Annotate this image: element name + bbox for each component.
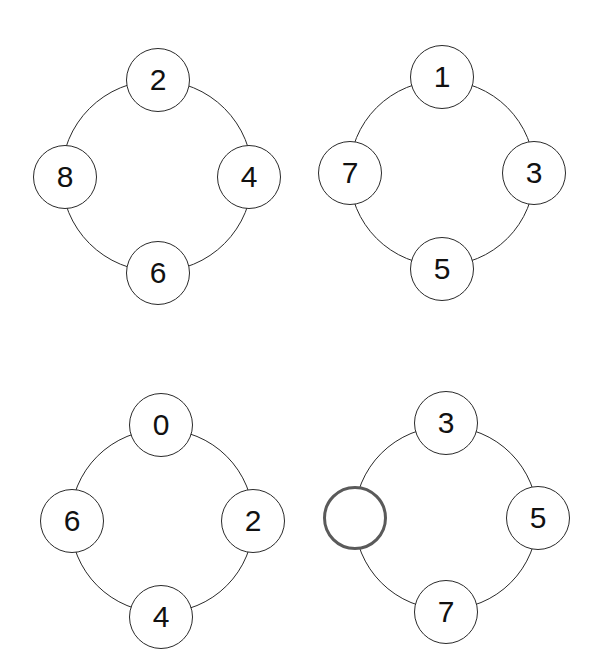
puzzle-diagram: 2 4 6 8 1 3 5 7 0 2 4 6 3 5 7 [0, 0, 599, 668]
node-3-right: 2 [221, 489, 285, 553]
node-2-right: 3 [502, 141, 566, 205]
node-4-bottom: 7 [414, 580, 478, 644]
node-2-bottom: 5 [410, 237, 474, 301]
node-3-left: 6 [40, 489, 104, 553]
node-1-bottom: 6 [126, 241, 190, 305]
node-3-bottom: 4 [129, 585, 193, 649]
node-1-right: 4 [217, 145, 281, 209]
node-4-right: 5 [506, 486, 570, 550]
node-4-top: 3 [414, 391, 478, 455]
node-1-left: 8 [33, 145, 97, 209]
node-1-top: 2 [126, 48, 190, 112]
missing-number-node [323, 486, 387, 550]
node-2-left: 7 [318, 141, 382, 205]
node-3-top: 0 [129, 393, 193, 457]
node-2-top: 1 [410, 45, 474, 109]
